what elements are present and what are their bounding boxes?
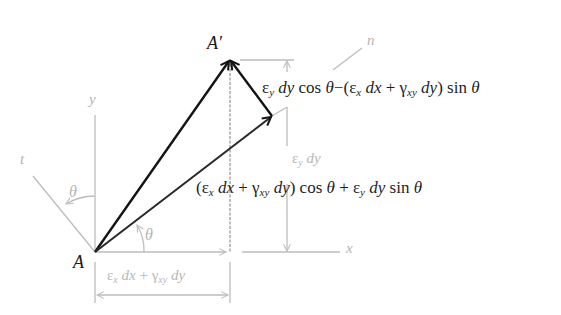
displacement-vectors [95, 61, 272, 252]
hdim-eps-sub: x [113, 274, 117, 285]
expr-top-gamma: γ [400, 78, 408, 97]
expr-top-minus: − [334, 78, 344, 97]
expr-top-plus: + [386, 78, 396, 97]
hdim-dy: dy [171, 267, 185, 283]
strain-diagram-canvas [0, 0, 561, 315]
horizontal-dimension-label: εx dx + γxy dy [107, 268, 185, 285]
hdim-plus: + [139, 267, 147, 283]
expr-mid-dy: dy [274, 178, 290, 197]
vdim-dy: dy [307, 150, 321, 166]
theta-label-y: θ [69, 184, 77, 200]
point-A-prime-label: A′ [207, 34, 222, 52]
expr-mid-theta2: θ [414, 178, 422, 197]
expr-mid-plus2: + [339, 178, 349, 197]
expr-mid-gamma: γ [252, 178, 260, 197]
expr-top-sin: sin [447, 78, 467, 97]
expr-mid-gamma-sub: xy [260, 186, 270, 198]
expr-mid-eps-sub: x [209, 186, 214, 198]
expr-mid-theta1: θ [327, 178, 335, 197]
expression-middle: (εx dx + γxy dy) cos θ + εy dy sin θ [196, 179, 422, 198]
expr-top-close: ) [437, 78, 443, 97]
expr-mid-cos: cos [300, 178, 323, 197]
n-axis-label: n [367, 33, 375, 48]
expr-top-theta2: θ [471, 78, 479, 97]
expr-mid-close: ) [290, 178, 296, 197]
expr-top-gamma-sub: xy [407, 86, 417, 98]
vdim-eps-sub: y [298, 157, 302, 168]
theta-arc-x [137, 225, 144, 252]
expr-mid-eps2-sub: y [360, 186, 365, 198]
theta-label-x: θ [145, 227, 153, 243]
hdim-gamma-sub: xy [158, 274, 167, 285]
expr-mid-sin: sin [390, 178, 410, 197]
expr-top-eps-sub: y [269, 86, 274, 98]
vertical-dimension-label: εy dy [292, 151, 321, 168]
tip-connector [272, 107, 287, 116]
expr-top-eps2-sub: x [356, 86, 361, 98]
point-A-label: A [73, 253, 84, 271]
expr-mid-dy2: dy [369, 178, 385, 197]
x-axis-label: x [346, 241, 353, 256]
expr-mid-dx: dx [218, 178, 234, 197]
t-axis-label: t [20, 152, 24, 167]
expr-mid-eps: ε [202, 178, 209, 197]
hdim-dx: dx [122, 267, 136, 283]
expr-top-dx: dx [365, 78, 381, 97]
expression-top: εy dy cos θ−(εx dx + γxy dy) sin θ [262, 79, 480, 98]
expr-top-dy1: dy [278, 78, 294, 97]
n-axis [333, 48, 362, 70]
y-axis-label: y [89, 92, 96, 107]
vector-A-to-Aprime [95, 61, 229, 252]
expr-top-cos: cos [299, 78, 322, 97]
expr-mid-plus: + [238, 178, 248, 197]
expr-top-theta1: θ [326, 78, 334, 97]
t-axis [33, 176, 95, 252]
expr-top-dy: dy [421, 78, 437, 97]
